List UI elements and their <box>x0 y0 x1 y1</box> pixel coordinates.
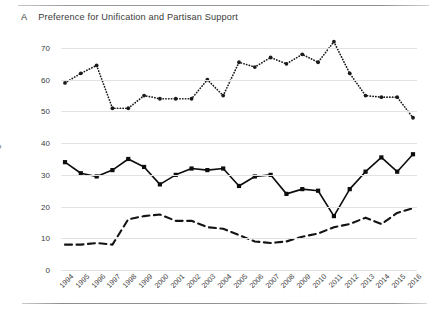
data-point-marker <box>190 97 194 101</box>
data-point-marker <box>158 97 162 101</box>
data-point-marker <box>395 95 399 99</box>
gridline <box>61 48 417 49</box>
data-point-marker <box>348 71 352 75</box>
data-point-marker <box>221 166 225 170</box>
y-tick-label: 50 <box>28 107 50 116</box>
y-tick-label: 10 <box>28 234 50 243</box>
data-point-marker <box>142 165 146 169</box>
gridline <box>61 111 417 112</box>
data-point-marker <box>237 184 241 188</box>
y-tick-label: 70 <box>28 44 50 53</box>
data-point-marker <box>111 106 115 110</box>
data-point-marker <box>316 189 320 193</box>
data-point-marker <box>379 155 383 159</box>
data-point-marker <box>63 160 67 164</box>
gridline <box>61 143 417 144</box>
data-point-marker <box>300 187 304 191</box>
data-point-marker <box>221 94 225 98</box>
top-divider-rule <box>18 5 429 6</box>
data-point-marker <box>269 56 273 60</box>
caption-text: Preference for Unification and Partisan … <box>38 12 238 22</box>
y-tick-label: 20 <box>28 202 50 211</box>
data-point-marker <box>126 157 130 161</box>
data-point-marker <box>284 192 288 196</box>
data-point-marker <box>411 152 415 156</box>
y-axis-title: Percentage <box>0 140 1 181</box>
gridline <box>61 270 417 271</box>
data-point-marker <box>395 170 399 174</box>
data-point-marker <box>253 65 257 69</box>
bottom-divider-rule <box>22 303 427 304</box>
chart-canvas <box>61 48 417 270</box>
figure-caption: APreference for Unification and Partisan… <box>21 12 238 22</box>
data-point-marker <box>237 60 241 64</box>
data-point-marker <box>189 166 193 170</box>
data-point-marker <box>379 95 383 99</box>
data-point-marker <box>126 106 130 110</box>
data-point-marker <box>95 64 99 68</box>
plot-area <box>61 48 417 270</box>
panel-letter: A <box>21 12 27 22</box>
y-tick-label: 60 <box>28 75 50 84</box>
x-axis: 1994199519961997199819992000200120022003… <box>61 272 417 312</box>
data-point-marker <box>205 168 209 172</box>
y-axis: Percentage 706050403020100 <box>0 48 56 270</box>
y-tick-label: 0 <box>28 266 50 275</box>
data-point-marker <box>364 94 368 98</box>
y-tick-label: 30 <box>28 170 50 179</box>
gridline <box>61 175 417 176</box>
data-point-marker <box>110 168 114 172</box>
data-point-marker <box>332 40 336 44</box>
data-point-marker <box>332 214 336 218</box>
data-point-marker <box>158 182 162 186</box>
gridline <box>61 207 417 208</box>
data-point-marker <box>174 97 178 101</box>
figure-panel: APreference for Unification and Partisan… <box>0 0 447 321</box>
data-point-marker <box>63 81 67 85</box>
gridline <box>61 238 417 239</box>
series-middle-solid <box>63 152 415 218</box>
data-point-marker <box>300 52 304 56</box>
data-point-marker <box>142 94 146 98</box>
data-point-marker <box>363 170 367 174</box>
data-point-marker <box>79 71 83 75</box>
data-point-marker <box>285 62 289 66</box>
data-point-marker <box>348 187 352 191</box>
data-point-marker <box>411 116 415 120</box>
gridline <box>61 80 417 81</box>
y-tick-label: 40 <box>28 139 50 148</box>
data-point-marker <box>316 60 320 64</box>
